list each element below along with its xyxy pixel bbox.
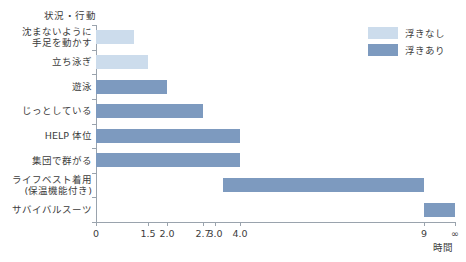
y-axis-category-label: じっとしている bbox=[0, 105, 92, 117]
x-axis-tick bbox=[215, 222, 216, 226]
x-axis-line bbox=[96, 222, 456, 223]
bar bbox=[96, 30, 134, 44]
legend-swatch-icon bbox=[368, 27, 398, 39]
y-axis-category-label: 遊泳 bbox=[0, 81, 92, 93]
y-axis-title: 状況・行動 bbox=[30, 8, 96, 22]
x-axis-tick bbox=[455, 222, 456, 226]
chart-row bbox=[96, 148, 456, 173]
x-axis-tick-label: 1.5 bbox=[140, 228, 155, 239]
y-axis-tick bbox=[92, 173, 96, 174]
y-axis-label-line: じっとしている bbox=[0, 105, 92, 117]
legend-label: 浮きあり bbox=[405, 43, 445, 57]
x-axis-tick-label: 3.0 bbox=[207, 228, 222, 239]
bar bbox=[96, 80, 167, 94]
legend: 浮きなし 浮きあり bbox=[368, 26, 445, 60]
y-axis-tick bbox=[92, 25, 96, 26]
y-axis-label-line: 沈まないように bbox=[0, 26, 92, 38]
x-axis-tick bbox=[167, 222, 168, 226]
y-axis-label-line: 立ち泳ぎ bbox=[0, 56, 92, 68]
bar bbox=[96, 55, 148, 69]
chart-row bbox=[96, 74, 456, 99]
x-axis-tick bbox=[203, 222, 204, 226]
y-axis-category-label: サバイバルスーツ bbox=[0, 204, 92, 216]
bar bbox=[96, 104, 203, 118]
y-axis-category-label: 沈まないように手足を動かす bbox=[0, 26, 92, 49]
x-axis-tick bbox=[148, 222, 149, 226]
y-axis-label-line: ライフベスト着用 bbox=[0, 174, 92, 186]
y-axis-category-label: 集団で群がる bbox=[0, 155, 92, 167]
y-axis-tick bbox=[92, 50, 96, 51]
bar bbox=[96, 129, 240, 143]
chart-row bbox=[96, 197, 456, 222]
bar bbox=[223, 178, 425, 192]
x-axis-tick bbox=[240, 222, 241, 226]
chart-row bbox=[96, 99, 456, 124]
y-axis-tick bbox=[92, 197, 96, 198]
y-axis-category-label: HELP 体位 bbox=[0, 130, 92, 142]
x-axis-tick-label: 2.0 bbox=[159, 228, 174, 239]
legend-item-with-float: 浮きあり bbox=[368, 43, 445, 56]
x-axis-title: 時間 bbox=[433, 240, 453, 254]
chart-root: 状況・行動 01.52.02.73.04.09∞ 浮きなし 浮きあり 沈まないよ… bbox=[0, 0, 466, 262]
y-axis-category-label: 立ち泳ぎ bbox=[0, 56, 92, 68]
x-axis-tick-label: 0 bbox=[93, 228, 99, 239]
bar bbox=[424, 203, 455, 217]
y-axis-tick bbox=[92, 124, 96, 125]
chart-row bbox=[96, 173, 456, 198]
y-axis-label-line: HELP 体位 bbox=[0, 130, 92, 142]
legend-label: 浮きなし bbox=[405, 26, 445, 40]
x-axis-tick bbox=[424, 222, 425, 226]
x-axis-tick-label: ∞ bbox=[451, 228, 459, 239]
y-axis-tick bbox=[92, 99, 96, 100]
x-axis-tick-label: 9 bbox=[421, 228, 427, 239]
legend-item-no-float: 浮きなし bbox=[368, 26, 445, 39]
y-axis-tick bbox=[92, 74, 96, 75]
x-axis-tick bbox=[96, 222, 97, 226]
y-axis-label-line: サバイバルスーツ bbox=[0, 204, 92, 216]
legend-swatch-icon bbox=[368, 44, 398, 56]
chart-row bbox=[96, 124, 456, 149]
y-axis-label-line: (保温機能付き) bbox=[0, 185, 92, 197]
x-axis-tick-label: 4.0 bbox=[232, 228, 247, 239]
y-axis-label-line: 集団で群がる bbox=[0, 155, 92, 167]
bar bbox=[96, 153, 240, 167]
y-axis-label-line: 遊泳 bbox=[0, 81, 92, 93]
y-axis-label-line: 手足を動かす bbox=[0, 37, 92, 49]
y-axis-tick bbox=[92, 148, 96, 149]
y-axis-category-label: ライフベスト着用(保温機能付き) bbox=[0, 174, 92, 197]
